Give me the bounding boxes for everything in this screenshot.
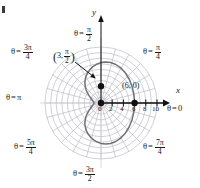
radius-value: 3, <box>57 51 63 60</box>
fraction-5pi-over-4: 5π4 <box>26 139 36 156</box>
fraction-denominator: 4 <box>155 52 161 61</box>
polar-plot-canvas <box>0 0 200 188</box>
equals-sign: = <box>79 28 84 38</box>
theta-label-pi: θ=π <box>6 93 21 102</box>
theta-symbol: θ <box>73 168 77 178</box>
theta-symbol: θ <box>14 141 18 151</box>
polar-graph-figure: y x θ=π2 θ=3π4 θ=π4 θ=π θ=0 θ=5π4 θ=7π4 … <box>0 0 200 188</box>
theta-label-3pi-over-4: θ=3π4 <box>11 44 34 61</box>
fraction-denominator: 4 <box>23 52 33 61</box>
fraction-numerator: π <box>155 44 161 52</box>
fraction-numerator: 5π <box>26 139 36 147</box>
theta-label-zero: θ=0 <box>167 104 182 113</box>
fraction-denominator: 4 <box>26 147 36 156</box>
paren-group: (3,π2) <box>53 48 75 64</box>
theta-symbol: θ <box>11 46 15 56</box>
x-tick-label-4: 4 <box>120 106 124 113</box>
pi-symbol: π <box>17 92 21 102</box>
fraction-denominator: 2 <box>86 34 92 43</box>
x-axis-label: x <box>176 86 180 95</box>
x-tick-label-6: 6 <box>132 106 136 113</box>
fraction-pi-over-4: π4 <box>155 44 161 61</box>
fraction-pi-over-2: π2 <box>86 26 92 43</box>
zero-value: 0 <box>178 103 182 113</box>
equals-sign: = <box>16 46 21 56</box>
theta-symbol: θ <box>143 141 147 151</box>
theta-label-5pi-over-4: θ=5π4 <box>14 139 37 156</box>
equals-sign: = <box>148 46 153 56</box>
fraction-denominator: 2 <box>85 174 95 183</box>
fraction-numerator: 3π <box>23 44 33 52</box>
fraction-7pi-over-4: 7π4 <box>155 139 165 156</box>
x-tick-label-2: 2 <box>109 106 113 113</box>
fraction-denominator: 2 <box>64 56 70 65</box>
theta-label-3pi-over-2: θ=3π2 <box>73 166 96 183</box>
point-label-3-pi-over-2: (3,π2) <box>53 48 75 64</box>
equals-sign: = <box>11 92 16 102</box>
fraction-3pi-over-4: 3π4 <box>23 44 33 61</box>
theta-symbol: θ <box>167 103 171 113</box>
fraction-3pi-over-2: 3π2 <box>85 166 95 183</box>
equals-sign: = <box>19 141 24 151</box>
equals-sign: = <box>172 103 177 113</box>
theta-symbol: θ <box>143 46 147 56</box>
equals-sign: = <box>148 141 153 151</box>
y-axis-arrowhead <box>98 15 104 22</box>
theta-symbol: θ <box>74 28 78 38</box>
equals-sign: = <box>78 168 83 178</box>
fraction-numerator: 3π <box>85 166 95 174</box>
point-label-6-0: (6, 0) <box>122 82 139 90</box>
theta-label-pi-over-4: θ=π4 <box>143 44 162 61</box>
x-tick-label-8: 8 <box>143 106 147 113</box>
fraction-numerator: π <box>64 48 70 56</box>
theta-label-pi-over-2: θ=π2 <box>74 26 93 43</box>
x-tick-label-0: 0 <box>98 106 102 113</box>
point-3-pi-over-2 <box>98 83 104 89</box>
right-paren: ) <box>71 53 75 63</box>
fraction-denominator: 4 <box>155 147 165 156</box>
fraction-numerator: π <box>86 26 92 34</box>
fraction-pi-over-2: π2 <box>64 48 70 64</box>
y-axis-label: y <box>92 8 96 17</box>
theta-symbol: θ <box>6 92 10 102</box>
theta-label-7pi-over-4: θ=7π4 <box>143 139 166 156</box>
x-tick-label-10: 10 <box>152 106 159 113</box>
fraction-numerator: 7π <box>155 139 165 147</box>
